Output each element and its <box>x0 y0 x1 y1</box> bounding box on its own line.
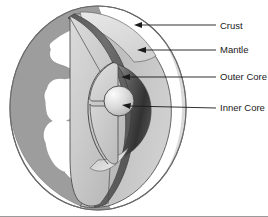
callout-labels: Crust Mantle Outer Core Inner Core <box>220 20 267 113</box>
earth-cutaway-figure: Crust Mantle Outer Core Inner Core <box>0 0 268 217</box>
label-inner-core: Inner Core <box>220 102 265 113</box>
label-outer-core: Outer Core <box>220 71 267 82</box>
earth-structure-diagram: Crust Mantle Outer Core Inner Core <box>0 0 268 217</box>
inner-core-layer <box>104 86 134 116</box>
label-crust: Crust <box>220 20 243 31</box>
inner-core-sphere <box>104 86 134 116</box>
label-mantle: Mantle <box>220 44 249 55</box>
